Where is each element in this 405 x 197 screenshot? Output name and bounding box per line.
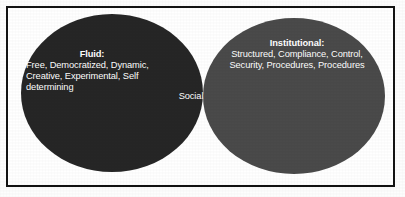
fluid-body: Free, Democratized, Dynamic, Creative, E…	[26, 60, 158, 93]
fluid-label-group: Fluid: Free, Democratized, Dynamic, Crea…	[26, 49, 158, 93]
institutional-heading: Institutional:	[222, 38, 372, 49]
venn-diagram-figure: Fluid: Free, Democratized, Dynamic, Crea…	[0, 0, 405, 197]
social-label: Social	[163, 91, 219, 102]
institutional-body: Structured, Compliance, Control, Securit…	[222, 49, 372, 71]
fluid-heading: Fluid:	[26, 49, 158, 60]
institutional-label-group: Institutional: Structured, Compliance, C…	[222, 38, 372, 71]
social-label-group: Social	[163, 91, 219, 102]
